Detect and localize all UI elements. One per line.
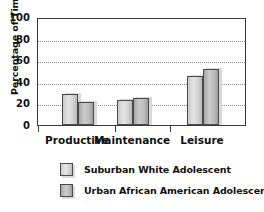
legend-swatch [60,163,73,176]
y-axis-tick-label: 40 [4,78,30,88]
gridline [38,41,245,42]
x-axis-tick [170,126,171,132]
legend-label: Suburban White Adolescent [84,164,231,175]
gridline [38,62,245,63]
y-axis-tick-label: 0 [4,121,30,131]
legend-item[interactable]: Urban African American Adolescent [60,180,264,200]
y-axis-tick-label: 100 [4,13,30,23]
legend-item[interactable]: Suburban White Adolescent [60,159,264,179]
y-axis-tick-labels: 100806040200 [4,0,30,212]
x-axis-tick [38,126,39,132]
bar [117,100,133,125]
x-axis-category-label: Leisure [152,134,252,146]
bar [62,94,78,125]
x-axis-tick [115,126,116,132]
y-axis-tick-label: 60 [4,56,30,66]
plot-area [37,18,246,126]
bar [133,98,149,125]
bar [78,102,94,125]
chart-legend: Suburban White AdolescentUrban African A… [60,159,264,201]
bar-chart-figure: Percentage of Time Spent 100806040200 Pr… [0,0,264,212]
legend-swatch [60,184,73,197]
bar [203,69,219,125]
y-axis-tick-label: 80 [4,35,30,45]
bar [187,76,203,125]
y-axis-tick-label: 20 [4,99,30,109]
legend-label: Urban African American Adolescent [84,185,264,196]
